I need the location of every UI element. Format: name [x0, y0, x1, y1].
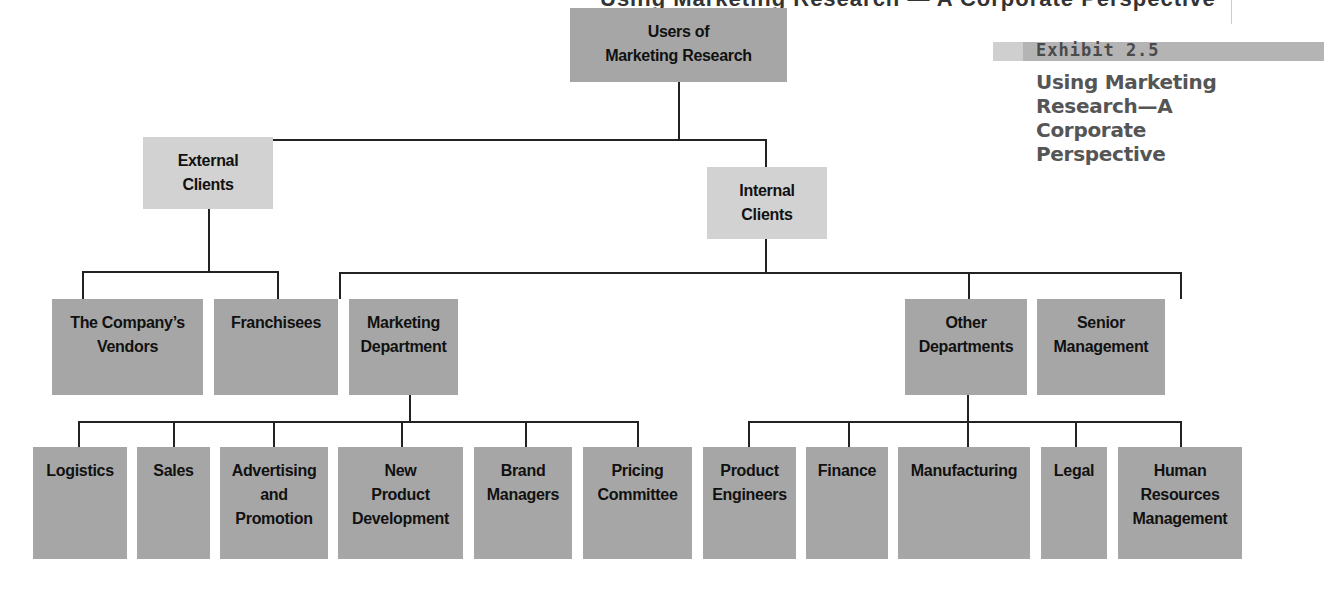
connector: [173, 421, 175, 447]
connector: [277, 271, 279, 299]
connector: [848, 421, 850, 447]
node-sales: Sales: [137, 447, 210, 559]
connector: [1075, 421, 1077, 447]
connector: [208, 209, 210, 272]
node-label: Senior Management: [1054, 311, 1149, 359]
node-franchisees: Franchisees: [214, 299, 338, 395]
connector: [339, 272, 1181, 274]
node-marketing-department: Marketing Department: [349, 299, 458, 395]
node-external-clients: External Clients: [143, 137, 273, 209]
node-label: Other Departments: [919, 311, 1014, 359]
node-brand-managers: Brand Managers: [474, 447, 572, 559]
node-company-vendors: The Company’s Vendors: [52, 299, 203, 395]
node-legal: Legal: [1041, 447, 1107, 559]
node-label: Advertising and Promotion: [232, 459, 317, 531]
node-label: Finance: [818, 459, 876, 483]
connector: [1180, 272, 1182, 299]
node-manufacturing: Manufacturing: [898, 447, 1030, 559]
node-logistics: Logistics: [33, 447, 127, 559]
connector: [765, 139, 767, 167]
node-internal-clients: Internal Clients: [707, 167, 827, 239]
node-senior-management: Senior Management: [1037, 299, 1165, 395]
connector: [748, 421, 750, 447]
connector: [1180, 421, 1182, 447]
node-label: Pricing Committee: [598, 459, 678, 507]
connector: [82, 271, 84, 299]
node-human-resources-management: Human Resources Management: [1118, 447, 1242, 559]
exhibit-label: Exhibit 2.5: [1036, 40, 1160, 60]
connector: [409, 395, 411, 422]
node-label: Internal Clients: [739, 179, 794, 227]
connector: [748, 421, 1181, 423]
node-label: Product Engineers: [712, 459, 787, 507]
connector: [967, 395, 969, 422]
node-other-departments: Other Departments: [905, 299, 1027, 395]
node-finance: Finance: [806, 447, 888, 559]
node-advertising-and-promotion: Advertising and Promotion: [220, 447, 328, 559]
connector: [968, 272, 970, 299]
node-pricing-committee: Pricing Committee: [583, 447, 692, 559]
node-label: Users of Marketing Research: [605, 20, 752, 68]
node-new-product-development: New Product Development: [338, 447, 463, 559]
connector: [82, 271, 278, 273]
connector: [678, 82, 680, 140]
node-label: The Company’s Vendors: [70, 311, 185, 359]
connector: [637, 421, 639, 447]
connector: [525, 421, 527, 447]
node-users-of-marketing-research: Users of Marketing Research: [570, 8, 787, 82]
node-label: Sales: [153, 459, 193, 483]
connector: [765, 239, 767, 273]
node-label: Legal: [1054, 459, 1094, 483]
connector: [967, 421, 969, 447]
connector: [401, 421, 403, 447]
connector: [188, 139, 766, 141]
connector: [78, 421, 638, 423]
node-label: Franchisees: [231, 311, 321, 335]
node-product-engineers: Product Engineers: [703, 447, 796, 559]
node-label: Brand Managers: [487, 459, 559, 507]
connector: [339, 272, 341, 299]
node-label: Manufacturing: [911, 459, 1017, 483]
exhibit-bar-accent: [993, 42, 1023, 61]
node-label: External Clients: [178, 149, 239, 197]
connector: [273, 421, 275, 447]
page-margin-rule: [1231, 0, 1232, 24]
node-label: New Product Development: [352, 459, 449, 531]
node-label: Marketing Department: [361, 311, 447, 359]
exhibit-title: Using Marketing Research—A Corporate Per…: [1036, 70, 1276, 166]
connector: [78, 421, 80, 447]
node-label: Human Resources Management: [1133, 459, 1228, 531]
node-label: Logistics: [46, 459, 114, 483]
